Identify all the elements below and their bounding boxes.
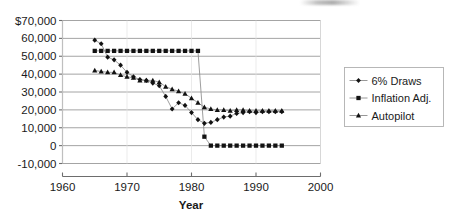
x-tick-label: 1980 <box>179 181 205 193</box>
square-marker <box>164 49 168 53</box>
triangle-marker <box>92 68 97 73</box>
x-tick-label: 1970 <box>114 181 140 193</box>
square-marker <box>235 143 239 147</box>
line-chart: $70,00060,00050,00040,00030,00020,00010,… <box>0 0 449 217</box>
y-tick-label: $70,000 <box>15 15 57 27</box>
square-marker <box>209 143 213 147</box>
chart-container: $70,00060,00050,00040,00030,00020,00010,… <box>0 0 449 217</box>
square-marker <box>183 49 187 53</box>
diamond-marker <box>215 117 220 122</box>
y-tick-label: 60,000 <box>21 32 56 44</box>
y-axis-tick-labels: $70,00060,00050,00040,00030,00020,00010,… <box>15 15 57 170</box>
x-tick-label: 1990 <box>243 181 269 193</box>
square-marker <box>280 143 284 147</box>
square-marker <box>99 49 103 53</box>
square-marker <box>273 143 277 147</box>
chart-legend: 6% DrawsInflation Adj.Autopilot <box>345 68 444 127</box>
y-tick-label: 20,000 <box>21 104 56 116</box>
y-tick-label: 10,000 <box>21 122 56 134</box>
square-marker <box>356 96 360 100</box>
square-marker <box>151 49 155 53</box>
scan-artifact <box>300 0 360 5</box>
triangle-marker <box>189 96 194 101</box>
series-markers-group <box>92 38 284 148</box>
square-marker <box>196 49 200 53</box>
square-marker <box>241 143 245 147</box>
square-marker <box>170 49 174 53</box>
square-marker <box>260 143 264 147</box>
diamond-marker <box>163 94 168 99</box>
x-axis-title: Year <box>179 199 204 211</box>
square-marker <box>189 49 193 53</box>
square-marker <box>202 135 206 139</box>
diamond-marker <box>208 120 213 125</box>
square-marker <box>247 143 251 147</box>
square-marker <box>93 49 97 53</box>
square-marker <box>125 49 129 53</box>
diamond-marker <box>99 41 104 46</box>
y-tick-label: 50,000 <box>21 50 56 62</box>
y-tick-label: 40,000 <box>21 68 56 80</box>
triangle-marker <box>195 100 200 105</box>
x-axis-tick-labels: 19601970198019902000 <box>50 181 334 193</box>
square-marker <box>118 49 122 53</box>
diamond-marker <box>202 121 207 126</box>
diamond-marker <box>228 114 233 119</box>
square-marker <box>144 49 148 53</box>
diamond-marker <box>221 114 226 119</box>
square-marker <box>222 143 226 147</box>
square-marker <box>106 49 110 53</box>
square-marker <box>112 49 116 53</box>
x-tick-label: 1960 <box>50 181 76 193</box>
y-tick-label: 0 <box>50 140 56 152</box>
square-marker <box>228 143 232 147</box>
y-tick-label: 30,000 <box>21 86 56 98</box>
square-marker <box>254 143 258 147</box>
square-marker <box>131 49 135 53</box>
square-marker <box>176 49 180 53</box>
triangle-marker <box>163 84 168 89</box>
square-marker <box>215 143 219 147</box>
square-marker <box>138 49 142 53</box>
x-tick-label: 2000 <box>308 181 334 193</box>
legend-label: 6% Draws <box>372 75 423 87</box>
diamond-marker <box>105 55 110 60</box>
y-tick-label: -10,000 <box>17 158 56 170</box>
square-marker <box>267 143 271 147</box>
square-marker <box>157 49 161 53</box>
legend-label: Inflation Adj. <box>372 92 432 104</box>
legend-label: Autopilot <box>372 110 415 122</box>
